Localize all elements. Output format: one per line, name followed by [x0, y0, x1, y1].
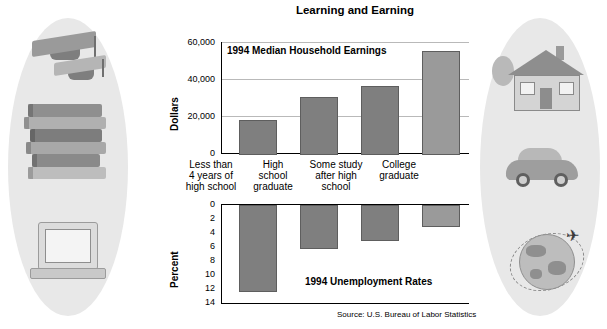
- bar-some-study: [361, 86, 399, 155]
- unemployment-ytick-0: 0: [171, 199, 215, 209]
- book-stack-icon: [24, 117, 106, 129]
- unemployment-chart: Percent 0 2 4 6 8 10 12 14 1994 Unemploy…: [165, 200, 477, 310]
- bar-less-than-hs: [239, 120, 277, 155]
- unemployment-plot-area: [221, 204, 469, 304]
- source-note: Source: U.S. Bureau of Labor Statistics: [337, 310, 476, 319]
- unemployment-ytick-2: 2: [171, 213, 215, 223]
- bar-unemp-hs-graduate: [300, 205, 338, 249]
- earnings-ytick-20000: 20,000: [171, 111, 215, 121]
- earnings-ytick-60000: 60,000: [171, 37, 215, 47]
- bar-unemp-less-than-hs: [239, 205, 277, 292]
- airplane-icon: ✈: [566, 228, 579, 244]
- gridline: [221, 42, 469, 43]
- earnings-ytick-0: 0: [171, 148, 215, 158]
- earnings-y-axis: [221, 42, 222, 154]
- earnings-chart: Dollars 60,000 40,000 20,000 0 1994 Medi…: [165, 36, 477, 156]
- computer-base-icon: [30, 268, 106, 279]
- book-stack-icon: [32, 154, 100, 167]
- car-wheel-icon: [554, 173, 568, 187]
- graduation-cap-icon: [48, 52, 118, 92]
- computer-screen-icon: [45, 229, 91, 263]
- unemployment-bottom-line: [221, 303, 469, 304]
- page-title: Learning and Earning: [235, 4, 475, 16]
- bar-hs-graduate: [300, 97, 338, 155]
- earnings-xlabel-3-line-0: College: [362, 159, 436, 170]
- unemployment-ytick-12: 12: [171, 283, 215, 293]
- book-stack-icon: [28, 104, 102, 117]
- book-stack-icon: [28, 167, 106, 179]
- unemployment-panel-note: 1994 Unemployment Rates: [305, 276, 432, 287]
- bar-unemp-college-graduate: [422, 205, 460, 227]
- bar-college-graduate: [422, 51, 460, 155]
- car-wheel-icon: [516, 173, 530, 187]
- earnings-xlabel-3: College graduate: [362, 159, 436, 181]
- earnings-panel-note: 1994 Median Household Earnings: [227, 45, 386, 56]
- house-window-icon: [559, 82, 574, 95]
- earnings-xlabel-2-line-2: school: [296, 181, 376, 192]
- house-roof-icon: [508, 50, 584, 75]
- unemployment-ytick-14: 14: [171, 297, 215, 307]
- unemployment-y-axis: [221, 204, 222, 304]
- bar-unemp-some-study: [361, 205, 399, 241]
- earnings-xlabel-3-line-1: graduate: [362, 170, 436, 181]
- unemployment-ytick-6: 6: [171, 241, 215, 251]
- book-stack-icon: [26, 142, 106, 154]
- house-window-icon: [520, 82, 535, 95]
- unemployment-ytick-8: 8: [171, 255, 215, 265]
- earnings-plot-area: [221, 42, 469, 154]
- book-stack-icon: [30, 129, 102, 142]
- figure-root: ✈ Learning and Earning Dollars 60,000 40…: [0, 0, 607, 329]
- earnings-ytick-40000: 40,000: [171, 74, 215, 84]
- unemployment-ytick-10: 10: [171, 269, 215, 279]
- house-door-icon: [540, 88, 552, 109]
- unemployment-ytick-4: 4: [171, 227, 215, 237]
